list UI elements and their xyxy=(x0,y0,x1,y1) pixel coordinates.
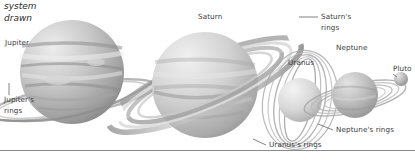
saturn-body-group xyxy=(99,20,311,149)
label-neptune: Neptune xyxy=(336,43,367,52)
label-uranus-rings: Uranus's rings xyxy=(269,140,322,149)
label-pluto: Pluto xyxy=(393,64,412,73)
label-uranus: Uranus xyxy=(288,58,314,67)
caption-fragment: system drawn xyxy=(4,1,37,24)
label-jupiter-rings-line1: Jupiter's xyxy=(4,95,34,104)
neptune-sphere xyxy=(332,72,378,118)
label-jupiter: Jupiter xyxy=(5,38,29,47)
diagram-canvas xyxy=(0,0,415,160)
label-neptune-rings: Neptune's rings xyxy=(336,125,394,134)
label-saturn-rings-line1: Saturn's xyxy=(321,12,351,21)
pluto-sphere xyxy=(394,72,408,86)
jupiter-body-group xyxy=(0,20,158,131)
label-saturn: Saturn xyxy=(198,12,222,21)
leader-uranus-rings xyxy=(253,139,266,145)
label-jupiter-rings-line2: rings xyxy=(4,106,22,115)
solar-system-ring-diagram: system drawn Jupiter Jupiter's rings Sat… xyxy=(0,0,415,160)
label-saturn-rings-line2: rings xyxy=(321,23,339,32)
